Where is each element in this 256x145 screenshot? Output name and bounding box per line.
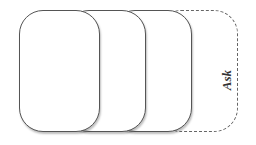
ask-label: Ask [217,60,237,100]
card-1 [19,10,100,132]
